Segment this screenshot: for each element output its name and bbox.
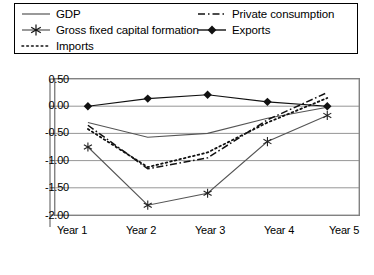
data-point-marker	[203, 91, 211, 99]
y-tick-label-0: 0.50	[23, 74, 69, 85]
x-tick-label-2: Year 3	[179, 225, 241, 236]
gridlines	[55, 79, 359, 215]
x-tick-label-0: Year 1	[41, 225, 103, 236]
y-tick-label-3: -1.00	[23, 155, 69, 166]
series-line	[88, 98, 327, 167]
y-tick-label-2: -0.50	[23, 127, 69, 138]
series-imports	[88, 98, 327, 167]
data-point-marker	[263, 137, 271, 146]
y-tick-label-1: 0.00	[23, 100, 69, 111]
data-point-marker	[84, 102, 92, 110]
data-point-marker	[323, 102, 331, 110]
x-tick-label-4: Year 5	[313, 225, 374, 236]
y-tick-label-5: -2.00	[23, 210, 69, 221]
series-layer	[84, 91, 332, 210]
x-tick-label-1: Year 2	[110, 225, 172, 236]
x-tick-label-3: Year 4	[248, 225, 310, 236]
line-chart: GDP Private consumption Gross fixed cap	[0, 0, 374, 275]
y-tick-label-4: -1.50	[23, 182, 69, 193]
data-point-marker	[263, 98, 271, 106]
data-point-marker	[144, 94, 152, 102]
data-point-marker	[323, 111, 331, 120]
